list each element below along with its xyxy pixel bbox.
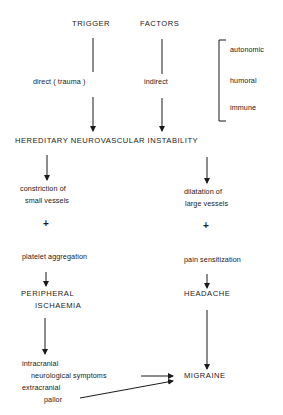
left-step1-line1: constriction of [20,185,66,192]
right-step1-line1: dilatation of [184,188,222,195]
left-plus: + [43,219,49,229]
central-node-instability: HEREDITARY NEUROVASCULAR INSTABILITY [15,137,198,145]
left-step1-line2: small vessels [25,197,69,204]
label-indirect: indirect [144,78,168,85]
symptom-extracranial: extracranial [22,384,60,391]
left-outcome-line1: PERIPHERAL [21,290,74,298]
factor-autonomic: autonomic [230,46,264,53]
right-step2-sensitization: pain sensitization [184,256,241,263]
left-step2-aggregation: platelet aggregation [22,253,87,260]
symptom-intracranial: intracranial [22,360,58,367]
symptom-pallor: pallor [44,396,62,403]
header-trigger: TRIGGER [72,20,110,28]
right-step1-line2: large vessels [185,200,228,207]
right-plus: + [203,221,209,231]
right-outcome-headache: HEADACHE [184,290,230,298]
label-direct-trauma: direct ( trauma ) [33,78,85,85]
symptom-neurological: neurological symptoms [31,372,107,379]
final-node-migraine: MIGRAINE [184,372,226,380]
header-factors: FACTORS [140,20,179,28]
connector-layer [0,0,283,415]
factor-humoral: humoral [230,77,257,84]
bracket-indirect-factors [219,40,226,121]
factor-immune: immune [230,104,256,111]
left-outcome-line2: ISCHAEMIA [35,302,81,310]
arrow-pallor-to-migraine [80,381,173,398]
